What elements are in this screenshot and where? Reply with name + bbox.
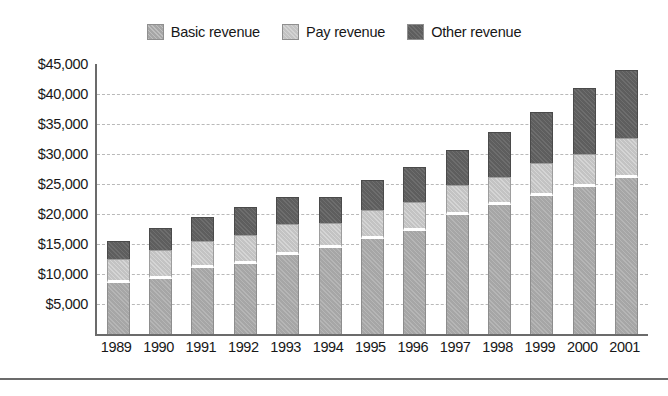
bar-segment-basic-revenue bbox=[107, 283, 130, 334]
bar-segment-other-revenue bbox=[446, 150, 469, 185]
bar-segment-pay-revenue bbox=[615, 138, 638, 178]
bar-group-1989 bbox=[97, 64, 139, 334]
bar-group-1992 bbox=[224, 64, 266, 334]
bar-stack bbox=[361, 180, 384, 334]
bar-segment-pay-revenue bbox=[276, 224, 299, 255]
bar-segment-basic-revenue bbox=[488, 205, 511, 334]
bar-segment-pay-revenue bbox=[107, 259, 130, 283]
bar-segment-other-revenue bbox=[488, 132, 511, 178]
bottom-divider bbox=[0, 378, 668, 380]
x-tick-label: 1994 bbox=[307, 340, 349, 355]
legend-swatch-basic-revenue bbox=[147, 24, 164, 40]
y-tick-label: $15,000 bbox=[2, 237, 88, 252]
bar-group-1993 bbox=[267, 64, 309, 334]
bar-segment-basic-revenue bbox=[361, 239, 384, 334]
plot-area bbox=[97, 64, 648, 334]
y-tick-label: $45,000 bbox=[2, 57, 88, 72]
bar-group-1990 bbox=[140, 64, 182, 334]
y-tick-label: $10,000 bbox=[2, 267, 88, 282]
y-tick-label: $30,000 bbox=[2, 147, 88, 162]
bar-segment-other-revenue bbox=[615, 70, 638, 138]
bar-segment-basic-revenue bbox=[573, 187, 596, 334]
legend-label: Basic revenue bbox=[171, 25, 260, 40]
bar-group-1991 bbox=[182, 64, 224, 334]
bar-group-1994 bbox=[309, 64, 351, 334]
bar-segment-basic-revenue bbox=[276, 255, 299, 334]
bar-segment-basic-revenue bbox=[403, 231, 426, 334]
bar-segment-other-revenue bbox=[361, 180, 384, 211]
y-tick-label: $20,000 bbox=[2, 207, 88, 222]
bar-segment-other-revenue bbox=[573, 88, 596, 154]
legend-swatch-other-revenue bbox=[407, 24, 424, 40]
bar-segment-other-revenue bbox=[276, 197, 299, 224]
legend-item-basic-revenue: Basic revenue bbox=[147, 24, 260, 40]
bar-segment-basic-revenue bbox=[149, 279, 172, 334]
chart-legend: Basic revenuePay revenueOther revenue bbox=[0, 24, 668, 40]
bar-stack bbox=[276, 197, 299, 334]
y-tick-label: $5,000 bbox=[2, 297, 88, 312]
bar-segment-other-revenue bbox=[107, 241, 130, 259]
bar-group-1999 bbox=[521, 64, 563, 334]
x-tick-label: 1992 bbox=[222, 340, 264, 355]
bar-stack bbox=[191, 217, 214, 334]
bar-segment-other-revenue bbox=[403, 167, 426, 202]
bar-group-1998 bbox=[479, 64, 521, 334]
bar-stack bbox=[446, 150, 469, 334]
x-tick-label: 1991 bbox=[180, 340, 222, 355]
legend-swatch-pay-revenue bbox=[282, 24, 299, 40]
x-tick-label: 2001 bbox=[604, 340, 646, 355]
bar-segment-other-revenue bbox=[149, 228, 172, 250]
bar-stack bbox=[319, 197, 342, 334]
bar-segment-pay-revenue bbox=[488, 177, 511, 205]
bar-segment-basic-revenue bbox=[191, 268, 214, 334]
x-tick-label: 1995 bbox=[349, 340, 391, 355]
bar-segment-other-revenue bbox=[530, 112, 553, 163]
bar-segment-pay-revenue bbox=[446, 185, 469, 215]
x-tick-label: 1998 bbox=[477, 340, 519, 355]
legend-item-other-revenue: Other revenue bbox=[407, 24, 521, 40]
bar-group-2001 bbox=[606, 64, 648, 334]
x-axis-labels: 1989199019911992199319941995199619971998… bbox=[95, 340, 646, 355]
x-tick-label: 1996 bbox=[392, 340, 434, 355]
x-tick-label: 1993 bbox=[265, 340, 307, 355]
bar-segment-pay-revenue bbox=[530, 163, 553, 196]
legend-label: Pay revenue bbox=[306, 25, 385, 40]
x-tick-label: 1999 bbox=[519, 340, 561, 355]
bar-group-1996 bbox=[394, 64, 436, 334]
x-tick-label: 1990 bbox=[138, 340, 180, 355]
x-tick-label: 1989 bbox=[95, 340, 137, 355]
revenue-stacked-bar-chart: Basic revenuePay revenueOther revenue $4… bbox=[0, 0, 668, 396]
bar-segment-pay-revenue bbox=[234, 235, 257, 264]
bar-segment-basic-revenue bbox=[446, 215, 469, 334]
bar-segment-other-revenue bbox=[191, 217, 214, 241]
bar-segment-basic-revenue bbox=[530, 196, 553, 334]
bar-segment-pay-revenue bbox=[361, 210, 384, 239]
bar-segment-pay-revenue bbox=[403, 202, 426, 231]
y-tick-label: $25,000 bbox=[2, 177, 88, 192]
bar-segment-other-revenue bbox=[234, 207, 257, 235]
bar-segment-pay-revenue bbox=[191, 241, 214, 268]
x-tick-label: 2000 bbox=[561, 340, 603, 355]
bar-stack bbox=[234, 207, 257, 334]
bar-stack bbox=[615, 70, 638, 334]
bar-segment-other-revenue bbox=[319, 197, 342, 223]
y-tick-label: $35,000 bbox=[2, 117, 88, 132]
bar-segment-basic-revenue bbox=[615, 178, 638, 334]
bar-stack bbox=[403, 167, 426, 334]
bar-stack bbox=[488, 132, 511, 334]
bar-segment-pay-revenue bbox=[319, 223, 342, 248]
bar-segment-basic-revenue bbox=[234, 264, 257, 334]
bar-group-2000 bbox=[563, 64, 605, 334]
bar-segment-pay-revenue bbox=[573, 154, 596, 187]
y-tick-label: $40,000 bbox=[2, 87, 88, 102]
legend-label: Other revenue bbox=[431, 25, 521, 40]
x-tick-label: 1997 bbox=[434, 340, 476, 355]
bar-group-1997 bbox=[436, 64, 478, 334]
legend-item-pay-revenue: Pay revenue bbox=[282, 24, 385, 40]
bar-stack bbox=[573, 88, 596, 334]
bar-group-1995 bbox=[351, 64, 393, 334]
plot-frame bbox=[95, 64, 648, 336]
bar-stack bbox=[530, 112, 553, 334]
bar-stack bbox=[107, 241, 130, 334]
bar-segment-pay-revenue bbox=[149, 250, 172, 279]
